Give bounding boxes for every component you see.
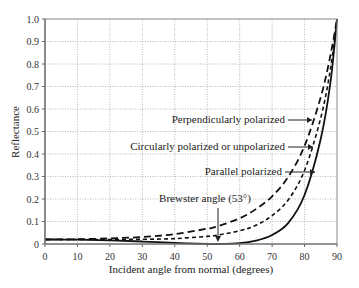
arrowhead-icon: [215, 236, 221, 242]
x-tick-label: 90: [332, 251, 342, 262]
y-tick-label: 0.1: [27, 216, 40, 227]
x-tick-label: 30: [137, 251, 147, 262]
y-tick-label: 1.0: [27, 14, 40, 25]
arrowhead-icon: [307, 117, 312, 123]
x-tick-label: 70: [267, 251, 277, 262]
x-tick-label: 80: [300, 251, 310, 262]
x-axis-label: Incident angle from normal (degrees): [109, 263, 274, 276]
y-tick-label: 0.6: [27, 104, 40, 115]
curve-circularly-polarized-or-unpolarized: [45, 19, 337, 240]
axes: [42, 19, 337, 247]
x-tick-label: 0: [43, 251, 48, 262]
y-tick-label: 0.7: [27, 81, 40, 92]
y-tick-label: 0.2: [27, 194, 40, 205]
x-tick-labels: 0102030405060708090: [43, 251, 343, 262]
x-tick-label: 50: [202, 251, 212, 262]
curve-perpendicularly-polarized: [45, 19, 337, 240]
reflectance-chart: 0102030405060708090 00.10.20.30.40.50.60…: [0, 0, 359, 288]
y-axis-label: Reflectance: [9, 106, 21, 158]
y-tick-label: 0.9: [27, 36, 40, 47]
y-tick-label: 0.8: [27, 59, 40, 70]
y-tick-label: 0: [34, 239, 39, 250]
x-tick-label: 40: [170, 251, 180, 262]
x-tick-label: 20: [105, 251, 115, 262]
annotation-brewster-label: Brewster angle (53°): [159, 192, 251, 205]
annotation-perpendicular: Perpendicularly polarized: [172, 113, 312, 125]
x-tick-label: 60: [235, 251, 245, 262]
annotation-circular: Circularly polarized or unpolarized: [130, 140, 313, 152]
annotation-circular-label: Circularly polarized or unpolarized: [130, 140, 285, 152]
annotation-parallel-label: Parallel polarized: [205, 165, 283, 177]
y-tick-label: 0.4: [27, 149, 40, 160]
y-tick-label: 0.3: [27, 171, 40, 182]
grid-lines: [45, 19, 337, 244]
y-tick-label: 0.5: [27, 126, 40, 137]
x-tick-label: 10: [72, 251, 82, 262]
annotation-brewster: Brewster angle (53°): [159, 192, 251, 242]
annotation-perpendicular-label: Perpendicularly polarized: [172, 113, 286, 125]
y-tick-labels: 00.10.20.30.40.50.60.70.80.91.0: [27, 14, 40, 250]
annotation-parallel: Parallel polarized: [205, 165, 315, 177]
